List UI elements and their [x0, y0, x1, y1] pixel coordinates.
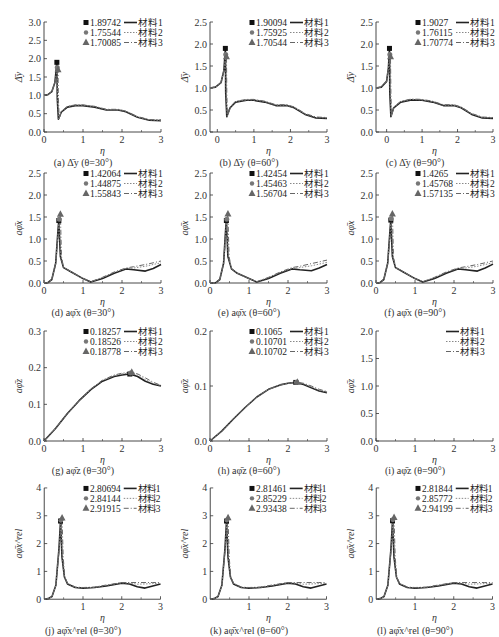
legend-peak-value: 0.18257 — [90, 327, 121, 337]
y-tick-label: 1.0 — [361, 234, 374, 245]
legend-circle-icon — [416, 181, 420, 185]
chart-svg: 0.00.51.01.52.02.50123ηΔ̄y1.9027材料11.761… — [332, 0, 498, 160]
legend-triangle-icon — [415, 504, 422, 510]
y-tick-label: 3 — [36, 510, 41, 521]
chart-svg: 01234123ηaφ̄x^rel2.81844材料12.85772材料22.9… — [332, 476, 498, 636]
legend-peak-value: 1.70085 — [90, 38, 121, 48]
x-axis-label: η — [266, 145, 271, 156]
chart-svg: 0.00.51.01.52.02.50123ηΔ̄y1.90094材料11.75… — [166, 0, 332, 160]
y-tick-label: 0.0 — [195, 278, 208, 289]
y-tick-label: 1.5 — [361, 212, 374, 223]
legend-series-name: 材料3 — [470, 503, 493, 514]
y-tick-label: 3 — [202, 510, 207, 521]
x-tick-label: 1 — [247, 285, 252, 296]
legend-triangle-icon — [83, 39, 90, 46]
legend-triangle-icon — [415, 190, 422, 197]
legend-series-name: 材料3 — [304, 346, 329, 357]
legend-series-name: 材料2 — [304, 27, 329, 38]
panel-caption: (l) aφ̄x^rel (θ=90°) — [332, 625, 498, 636]
y-tick-label: 1.0 — [195, 83, 208, 94]
y-tick-label: 2.5 — [29, 35, 42, 46]
legend-series-name: 材料1 — [138, 17, 163, 28]
y-tick-label: 0 — [368, 594, 373, 605]
x-axis-label: η — [432, 296, 437, 307]
legend-circle-icon — [250, 339, 254, 343]
x-tick-label: 1 — [413, 443, 418, 454]
series-line-1 — [210, 382, 327, 441]
x-tick-label: 3 — [491, 134, 496, 145]
y-tick-label: 2 — [368, 538, 373, 549]
x-tick-label: 0 — [42, 285, 47, 296]
legend-series-name: 材料1 — [470, 17, 495, 28]
x-tick-label: 3 — [325, 285, 330, 296]
legend: 2.80694材料12.84144材料22.91915材料3 — [83, 483, 161, 514]
legend-series-name: 材料2 — [138, 27, 163, 38]
chart-svg: 0.00.51.01.52.02.50123ηaφ̄x1.42454材料11.4… — [166, 160, 332, 320]
y-tick-label: 1.5 — [195, 212, 208, 223]
chart-svg: 01234123ηaφ̄x^rel2.80694材料12.84144材料22.9… — [0, 476, 166, 636]
legend-square-icon — [415, 486, 420, 491]
legend-series-name: 材料1 — [138, 326, 163, 337]
y-tick-label: 0.0 — [29, 436, 42, 447]
legend-peak-value: 1.44875 — [90, 179, 121, 189]
legend-peak-value: 1.70544 — [256, 38, 287, 48]
y-tick-label: 0.3 — [29, 326, 42, 337]
legend: 1.42454材料11.45463材料21.56704材料3 — [249, 168, 330, 199]
y-tick-label: 1.0 — [361, 83, 374, 94]
legend-series-name: 材料2 — [304, 178, 329, 189]
y-axis-label: aφ̄z — [179, 379, 190, 394]
y-tick-label: 0.0 — [361, 127, 374, 138]
y-tick-label: 2 — [202, 538, 207, 549]
y-tick-label: 0.0 — [195, 127, 208, 138]
legend-square-icon — [250, 20, 255, 25]
legend-series-name: 材料2 — [470, 178, 495, 189]
legend-triangle-icon — [83, 504, 90, 510]
x-axis-label: η — [100, 454, 105, 465]
peak-marker-square — [387, 46, 392, 51]
legend-series-name: 材料3 — [304, 503, 327, 514]
legend-triangle-icon — [249, 348, 256, 355]
y-tick-label: 2.0 — [29, 190, 42, 201]
x-tick-label: 1 — [81, 601, 86, 612]
legend-peak-value: 2.94199 — [422, 504, 453, 514]
y-tick-label: 1.5 — [195, 61, 208, 72]
x-axis-label: η — [432, 454, 437, 465]
legend-series-name: 材料2 — [304, 493, 327, 504]
legend-triangle-icon — [415, 39, 422, 46]
legend-circle-icon — [84, 496, 88, 500]
legend-series-name: 材料1 — [304, 483, 327, 494]
y-tick-label: 4 — [368, 482, 373, 493]
legend-peak-value: 2.84144 — [90, 494, 121, 504]
legend: 0.18257材料10.18526材料20.18778材料3 — [83, 326, 164, 357]
x-tick-label: 1 — [247, 601, 252, 612]
legend-triangle-icon — [249, 190, 256, 197]
x-tick-label: 2 — [288, 134, 293, 145]
y-axis-label: aφ̄x^rel — [13, 528, 24, 558]
legend-circle-icon — [250, 30, 254, 34]
chart-svg: 0.00.10.20.30123ηaφ̄z0.18257材料10.18526材料… — [0, 318, 166, 478]
x-tick-label: 2 — [451, 601, 456, 612]
y-axis-label: Δ̄y — [13, 71, 24, 83]
x-tick-label: 2 — [119, 601, 124, 612]
x-tick-label: 1 — [413, 285, 418, 296]
x-axis-label: η — [100, 145, 105, 156]
x-tick-label: 1 — [81, 285, 86, 296]
legend-series-name: 材料1 — [138, 483, 161, 494]
legend-peak-value: 2.81461 — [256, 484, 287, 494]
x-axis-label: η — [432, 145, 437, 156]
legend: 材料1材料2材料3 — [446, 326, 485, 357]
chart-svg: 0.00.51.01.52.00123ηaφ̄z材料1材料2材料3 — [332, 318, 498, 478]
legend: 0.1065材料10.10701材料20.10702材料3 — [249, 326, 330, 357]
legend-peak-value: 2.80694 — [90, 484, 121, 494]
chart-panel-g: 0.00.10.20.30123ηaφ̄z0.18257材料10.18526材料… — [0, 318, 166, 476]
y-tick-label: 2.0 — [361, 190, 374, 201]
legend-circle-icon — [416, 496, 420, 500]
panel-caption: (i) aφ̄z (θ=90°) — [332, 465, 498, 476]
chart-svg: 0.00.51.01.52.02.53.00123ηΔ̄y1.89742材料11… — [0, 0, 166, 160]
x-axis-label: η — [100, 612, 105, 623]
y-tick-label: 0 — [36, 594, 41, 605]
x-tick-label: 2 — [452, 285, 457, 296]
legend-series-name: 材料1 — [470, 483, 493, 494]
series-line-2 — [44, 373, 161, 441]
chart-panel-l: 01234123ηaφ̄x^rel2.81844材料12.85772材料22.9… — [332, 476, 498, 637]
